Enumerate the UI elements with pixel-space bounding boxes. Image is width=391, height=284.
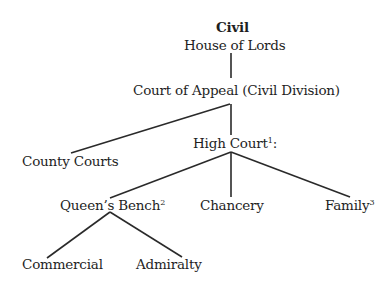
- node-label: High Court: [193, 135, 268, 151]
- node-admiralty: Admiralty: [136, 256, 202, 272]
- footnote-marker: 3: [369, 198, 374, 207]
- node-label: Court of Appeal (Civil Division): [133, 82, 340, 98]
- edge-high-family: [231, 152, 350, 197]
- node-high-court: High Court1:: [193, 135, 277, 151]
- node-suffix: :: [273, 135, 277, 151]
- footnote-marker: 2: [160, 198, 165, 207]
- node-family: Family3: [325, 197, 374, 213]
- edge-queens-commercial: [47, 212, 110, 258]
- node-court-of-appeal: Court of Appeal (Civil Division): [133, 82, 340, 98]
- node-label: Chancery: [200, 197, 264, 213]
- node-label: Queen’s Bench: [60, 197, 160, 213]
- node-label: Family: [325, 197, 369, 213]
- edge-queens-admiralty: [110, 212, 182, 257]
- node-label: House of Lords: [184, 37, 286, 53]
- node-commercial: Commercial: [22, 256, 103, 272]
- node-label: Admiralty: [136, 256, 202, 272]
- node-label: County Courts: [22, 153, 119, 169]
- edge-high-queens: [110, 152, 231, 198]
- node-house-of-lords: House of Lords: [184, 37, 286, 53]
- diagram-title: Civil: [216, 19, 249, 35]
- node-queens-bench: Queen’s Bench2: [60, 197, 165, 213]
- node-chancery: Chancery: [200, 197, 264, 213]
- node-label: Commercial: [22, 256, 103, 272]
- node-county-courts: County Courts: [22, 153, 119, 169]
